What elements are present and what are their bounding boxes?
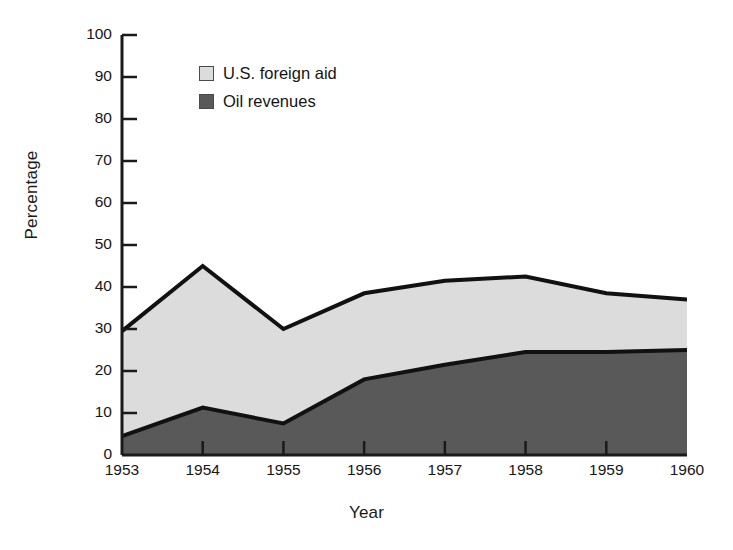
legend-label-oil-revenues: Oil revenues (223, 92, 316, 111)
x-tick-label: 1954 (168, 461, 238, 479)
y-tick-label: 40 (62, 277, 112, 295)
y-tick-label: 50 (62, 235, 112, 253)
chart-figure: 0102030405060708090100 19531954195519561… (0, 0, 733, 550)
legend-swatch-us-foreign-aid (199, 66, 214, 81)
x-tick-label: 1958 (491, 461, 561, 479)
plot-areas (122, 266, 687, 455)
x-tick-label: 1957 (410, 461, 480, 479)
legend-item-us-foreign-aid: U.S. foreign aid (199, 64, 337, 83)
y-tick-label: 60 (62, 193, 112, 211)
x-tick-label: 1960 (652, 461, 722, 479)
y-tick-label: 70 (62, 151, 112, 169)
y-tick-label: 30 (62, 319, 112, 337)
legend-item-oil-revenues: Oil revenues (199, 92, 316, 111)
x-axis-title: Year (0, 503, 733, 523)
y-tick-label: 100 (62, 25, 112, 43)
y-tick-label: 10 (62, 403, 112, 421)
x-tick-label: 1955 (248, 461, 318, 479)
x-tick-label: 1956 (329, 461, 399, 479)
legend-swatch-oil-revenues (199, 94, 214, 109)
y-tick-label: 20 (62, 361, 112, 379)
y-tick-label: 90 (62, 67, 112, 85)
y-tick-label: 80 (62, 109, 112, 127)
y-axis-title: Percentage (22, 115, 42, 275)
x-tick-label: 1959 (571, 461, 641, 479)
legend-label-us-foreign-aid: U.S. foreign aid (223, 64, 337, 83)
x-tick-label: 1953 (87, 461, 157, 479)
